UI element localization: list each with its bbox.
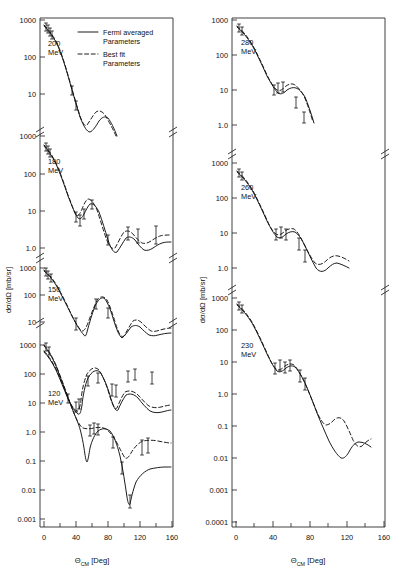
svg-text:10: 10	[28, 399, 36, 408]
svg-text:100: 100	[216, 194, 228, 203]
svg-text:100: 100	[24, 291, 36, 300]
svg-text:100: 100	[216, 51, 228, 60]
left-xtick-0: 0	[42, 533, 46, 542]
left-dataset-180	[44, 143, 171, 252]
svg-text:1.0: 1.0	[26, 428, 36, 437]
legend-entry-0-line2: Parameters	[103, 37, 141, 46]
svg-text:1.0: 1.0	[26, 244, 36, 253]
left-x-axis-label: ΘCM [Deg]	[75, 556, 110, 567]
left-energy-180-value: 180	[48, 157, 60, 166]
figure-svg: 1000 100 10 1000 100 10 1.0 1000 100 10 …	[0, 0, 402, 580]
legend-entry-1-line2: Parameters	[103, 59, 141, 68]
svg-text:10: 10	[28, 90, 36, 99]
right-panel-frame	[232, 18, 385, 527]
svg-text:1000: 1000	[212, 16, 228, 25]
figure-root: 1000 100 10 1000 100 10 1.0 1000 100 10 …	[0, 0, 402, 580]
left-200-datapoints	[44, 23, 78, 110]
left-panel-frame	[40, 18, 173, 527]
svg-text:0.1: 0.1	[26, 457, 36, 466]
right-x-ticks: 0 40 80 120 160	[234, 521, 390, 542]
right-xtick-0: 0	[234, 533, 238, 542]
svg-text:ΘCM [Deg]: ΘCM [Deg]	[75, 556, 110, 567]
right-energy-230-unit: MeV	[241, 350, 256, 359]
svg-text:0.001: 0.001	[18, 515, 37, 524]
svg-text:1000: 1000	[20, 264, 36, 273]
svg-text:100: 100	[24, 370, 36, 379]
right-panel: 1000 100 10 1.0 1000 100 10 1.0 1000 100…	[198, 16, 390, 567]
right-280-lower-curve-bestfit	[237, 171, 349, 264]
svg-text:1000: 1000	[20, 132, 36, 141]
svg-text:1000: 1000	[20, 16, 36, 25]
svg-text:1000: 1000	[20, 341, 36, 350]
right-dataset-260	[237, 302, 371, 458]
left-energy-labels: 200 MeV 180 MeV 150 MeV 120 MeV	[48, 39, 63, 407]
left-150-curve-fermi	[44, 271, 171, 338]
svg-text:0.01: 0.01	[22, 486, 36, 495]
left-180-curve-fermi	[44, 146, 171, 252]
right-xtick-160: 160	[378, 533, 390, 542]
left-y-axis-label: dσ/dΩ [mb/sr]	[4, 267, 13, 313]
svg-text:1.0: 1.0	[218, 390, 228, 399]
svg-text:0.01: 0.01	[214, 454, 228, 463]
left-x-ticks: 0 40 80 120 160	[42, 521, 178, 542]
svg-text:1000: 1000	[212, 159, 228, 168]
svg-text:0.0001: 0.0001	[205, 518, 228, 527]
right-y-axis-label: dσ/dΩ [mb/sr]	[198, 277, 207, 323]
left-180-datapoints	[44, 143, 158, 245]
legend-entry-1-line1: Best fit	[103, 50, 125, 59]
svg-text:100: 100	[216, 326, 228, 335]
svg-text:10: 10	[28, 318, 36, 327]
legend-entry-0-line1: Fermi averaged	[103, 28, 153, 37]
right-xlabel-unit: [Deg]	[307, 556, 325, 565]
left-dataset-150	[44, 268, 171, 338]
right-xtick-40: 40	[269, 533, 277, 542]
right-xtick-80: 80	[306, 533, 314, 542]
left-120-curve-fermi	[44, 346, 171, 505]
svg-text:100: 100	[24, 53, 36, 62]
right-dataset-280-lower	[237, 169, 349, 271]
svg-text:1.0: 1.0	[218, 264, 228, 273]
left-energy-120-value: 120	[48, 389, 60, 398]
svg-text:ΘCM [Deg]: ΘCM [Deg]	[291, 556, 326, 567]
left-xtick-120: 120	[134, 533, 146, 542]
left-panel: 1000 100 10 1000 100 10 1.0 1000 100 10 …	[4, 16, 178, 567]
svg-text:10: 10	[220, 229, 228, 238]
svg-text:100: 100	[24, 170, 36, 179]
left-xtick-160: 160	[166, 533, 178, 542]
svg-text:10: 10	[220, 86, 228, 95]
left-xtick-40: 40	[72, 533, 80, 542]
svg-text:1.0: 1.0	[218, 121, 228, 130]
left-xtick-80: 80	[104, 533, 112, 542]
right-xtick-120: 120	[341, 533, 353, 542]
svg-text:10: 10	[28, 207, 36, 216]
left-120-datapoints	[44, 343, 150, 508]
left-180-curve-bestfit	[44, 145, 171, 249]
svg-text:10: 10	[220, 358, 228, 367]
right-energy-230-value: 230	[241, 341, 253, 350]
svg-text:0.1: 0.1	[218, 422, 228, 431]
right-dataset-280	[237, 24, 314, 123]
legend: Fermi averaged Parameters Best fit Param…	[78, 28, 153, 69]
left-dataset-120	[44, 343, 171, 508]
left-y-ticks: 1000 100 10 1000 100 10 1.0 1000 100 10 …	[18, 16, 46, 524]
left-energy-150-unit: MeV	[48, 294, 63, 303]
left-energy-180-unit: MeV	[48, 166, 63, 175]
svg-text:1000: 1000	[212, 294, 228, 303]
svg-text:0.001: 0.001	[210, 486, 229, 495]
right-260-curve-bestfit	[237, 304, 371, 447]
right-x-axis-label: ΘCM [Deg]	[291, 556, 326, 567]
left-xlabel-unit: [Deg]	[91, 556, 109, 565]
left-energy-120-unit: MeV	[48, 398, 63, 407]
